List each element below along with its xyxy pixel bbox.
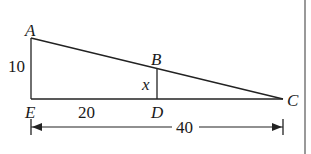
measure-ED: 20: [78, 103, 95, 122]
arrowhead-right-icon: [272, 123, 282, 131]
label-point-C: C: [287, 91, 299, 110]
label-point-D: D: [150, 103, 164, 122]
label-point-E: E: [24, 103, 36, 122]
arrowhead-left-icon: [32, 123, 42, 131]
measure-EC: 40: [176, 118, 193, 137]
measure-BD: x: [141, 75, 150, 94]
label-point-B: B: [151, 50, 162, 69]
geometry-diagram: A B C D E 10 20 x 40: [0, 0, 311, 154]
label-point-A: A: [24, 21, 36, 40]
measure-AE: 10: [8, 57, 25, 76]
